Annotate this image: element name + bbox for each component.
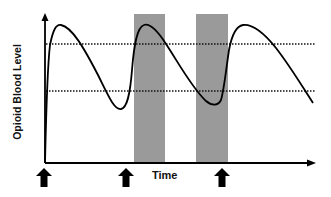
y-axis-label: Opioid Blood Level bbox=[11, 37, 23, 147]
dose-arrow-icon-2 bbox=[118, 168, 134, 187]
dose-arrow-icon-3 bbox=[214, 168, 230, 187]
opioid-level-chart bbox=[0, 0, 331, 197]
blood-level-curve bbox=[45, 25, 313, 163]
x-axis-arrowhead-icon bbox=[307, 160, 316, 167]
x-axis-label: Time bbox=[152, 169, 177, 181]
dose-arrow-icon-1 bbox=[36, 168, 52, 187]
y-axis-arrowhead-icon bbox=[42, 13, 49, 21]
